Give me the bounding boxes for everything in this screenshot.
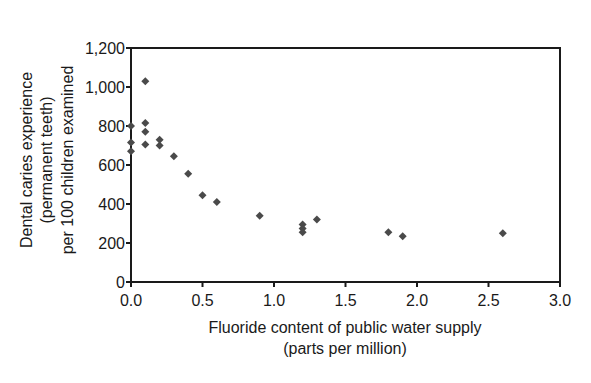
diamond-marker	[127, 139, 135, 147]
x-tick-label: 1.5	[334, 292, 356, 309]
diamond-marker	[213, 198, 221, 206]
diamond-marker	[256, 212, 264, 220]
data-points	[127, 77, 507, 240]
y-tick-label: 200	[98, 235, 125, 252]
y-axis-title-line: Dental caries experience	[18, 72, 35, 248]
diamond-marker	[127, 122, 135, 130]
x-tick-label: 0.5	[191, 292, 213, 309]
x-axis-title-line: (parts per million)	[283, 340, 407, 357]
diamond-marker	[170, 152, 178, 160]
x-tick-label: 1.0	[263, 292, 285, 309]
x-axis-ticks: 0.00.51.01.52.02.53.0	[120, 282, 571, 309]
y-axis-title-line: (permanent teeth)	[38, 96, 55, 223]
y-axis-ticks: 02004006008001,0001,200	[85, 40, 131, 291]
x-axis-title-line: Fluoride content of public water supply	[208, 319, 481, 336]
y-tick-label: 1,000	[85, 79, 125, 96]
diamond-marker	[141, 141, 149, 149]
scatter-chart: Dental caries experience(permanent teeth…	[0, 0, 591, 383]
y-tick-label: 400	[98, 196, 125, 213]
plot-frame	[131, 48, 560, 282]
y-tick-label: 800	[98, 118, 125, 135]
x-axis-title: Fluoride content of public water supply(…	[208, 319, 481, 357]
diamond-marker	[399, 232, 407, 240]
diamond-marker	[384, 228, 392, 236]
x-tick-label: 0.0	[120, 292, 142, 309]
diamond-marker	[127, 147, 135, 155]
diamond-marker	[499, 229, 507, 237]
diamond-marker	[184, 170, 192, 178]
diamond-marker	[156, 142, 164, 150]
x-tick-label: 2.5	[477, 292, 499, 309]
y-axis-title-line: per 100 children examined	[59, 66, 76, 255]
diamond-marker	[141, 128, 149, 136]
y-tick-label: 1,200	[85, 40, 125, 57]
y-tick-label: 0	[116, 274, 125, 291]
y-axis-title: Dental caries experience(permanent teeth…	[18, 66, 76, 255]
diamond-marker	[141, 77, 149, 85]
y-tick-label: 600	[98, 157, 125, 174]
diamond-marker	[141, 119, 149, 127]
x-tick-label: 3.0	[549, 292, 571, 309]
x-tick-label: 2.0	[406, 292, 428, 309]
diamond-marker	[313, 216, 321, 224]
diamond-marker	[199, 191, 207, 199]
